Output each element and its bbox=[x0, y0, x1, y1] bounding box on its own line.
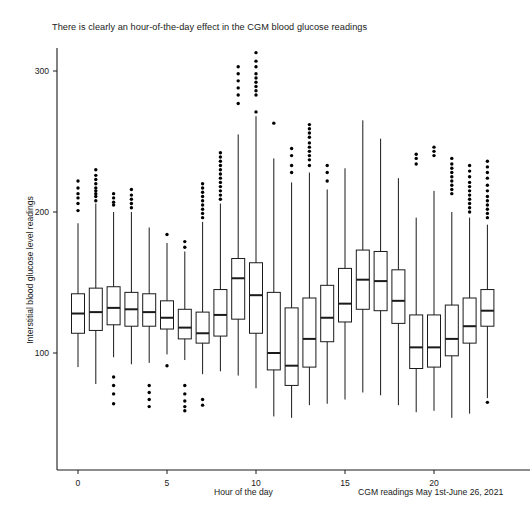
outlier-point bbox=[237, 72, 240, 75]
outlier-point bbox=[183, 392, 186, 395]
outlier-point bbox=[219, 164, 222, 167]
x-tick-label: 0 bbox=[68, 478, 88, 488]
box-iqr bbox=[107, 287, 120, 325]
outlier-point bbox=[130, 206, 133, 209]
outlier-point bbox=[450, 167, 453, 170]
outlier-point bbox=[165, 233, 168, 236]
outlier-point bbox=[219, 176, 222, 179]
box-iqr bbox=[303, 298, 316, 367]
boxplot-hour-16 bbox=[356, 120, 369, 392]
outlier-point bbox=[237, 79, 240, 82]
outlier-point bbox=[254, 65, 257, 68]
box-iqr bbox=[143, 294, 156, 326]
y-axis-label: Interstitial blood glucose level reading… bbox=[25, 160, 35, 380]
boxplot-hour-22 bbox=[463, 164, 476, 414]
outlier-point bbox=[219, 172, 222, 175]
y-tick-label: 300 bbox=[21, 66, 49, 76]
outlier-point bbox=[415, 162, 418, 165]
boxplot-hour-21 bbox=[445, 157, 458, 418]
outlier-point bbox=[486, 184, 489, 187]
outlier-point bbox=[432, 145, 435, 148]
outlier-point bbox=[201, 186, 204, 189]
boxplot-hour-7 bbox=[196, 182, 209, 407]
box-iqr bbox=[178, 309, 191, 339]
outlier-point bbox=[94, 174, 97, 177]
outlier-point bbox=[468, 206, 471, 209]
box-iqr bbox=[285, 308, 298, 386]
outlier-point bbox=[432, 150, 435, 153]
outlier-point bbox=[254, 81, 257, 84]
outlier-point bbox=[183, 384, 186, 387]
outlier-point bbox=[94, 182, 97, 185]
outlier-point bbox=[76, 186, 79, 189]
outlier-point bbox=[148, 405, 151, 408]
outlier-point bbox=[76, 202, 79, 205]
box-iqr bbox=[445, 305, 458, 356]
outlier-point bbox=[130, 198, 133, 201]
outlier-point bbox=[308, 164, 311, 167]
boxplot-hour-17 bbox=[374, 139, 387, 396]
boxplot-hour-1 bbox=[89, 168, 102, 384]
outlier-point bbox=[201, 207, 204, 210]
outlier-point bbox=[486, 160, 489, 163]
outlier-point bbox=[112, 375, 115, 378]
boxplot-hour-13 bbox=[303, 123, 316, 405]
outlier-point bbox=[450, 162, 453, 165]
outlier-point bbox=[486, 199, 489, 202]
boxplot-hour-8 bbox=[214, 151, 227, 371]
outlier-point bbox=[112, 192, 115, 195]
boxplot-hour-18 bbox=[392, 178, 405, 405]
outlier-point bbox=[148, 384, 151, 387]
outlier-point bbox=[290, 164, 293, 167]
boxplot-hour-14 bbox=[321, 164, 334, 404]
boxplot-hour-9 bbox=[232, 65, 245, 375]
box-iqr bbox=[321, 285, 334, 341]
outlier-point bbox=[254, 110, 257, 113]
outlier-point bbox=[201, 199, 204, 202]
outlier-point bbox=[486, 195, 489, 198]
outlier-point bbox=[415, 152, 418, 155]
outlier-point bbox=[308, 150, 311, 153]
outlier-point bbox=[219, 185, 222, 188]
outlier-point bbox=[76, 179, 79, 182]
outlier-point bbox=[486, 216, 489, 219]
outlier-point bbox=[468, 181, 471, 184]
outlier-point bbox=[237, 65, 240, 68]
outlier-point bbox=[468, 193, 471, 196]
outlier-point bbox=[308, 158, 311, 161]
outlier-point bbox=[94, 186, 97, 189]
box-iqr bbox=[267, 292, 280, 370]
boxplot-hour-0 bbox=[72, 179, 85, 367]
box-iqr bbox=[232, 259, 245, 320]
outlier-point bbox=[76, 192, 79, 195]
boxplot-hour-12 bbox=[285, 147, 298, 418]
outlier-point bbox=[183, 405, 186, 408]
outlier-point bbox=[308, 136, 311, 139]
outlier-point bbox=[326, 164, 329, 167]
outlier-point bbox=[326, 171, 329, 174]
outlier-point bbox=[237, 102, 240, 105]
outlier-point bbox=[468, 164, 471, 167]
outlier-point bbox=[112, 384, 115, 387]
outlier-point bbox=[272, 121, 275, 124]
outlier-point bbox=[183, 409, 186, 412]
boxplot-hour-23 bbox=[481, 160, 494, 405]
box-iqr bbox=[392, 270, 405, 324]
outlier-point bbox=[308, 131, 311, 134]
box-iqr bbox=[161, 301, 174, 329]
outlier-point bbox=[468, 202, 471, 205]
outlier-point bbox=[237, 86, 240, 89]
chart-caption: CGM readings May 1st-June 26, 2021 bbox=[358, 487, 503, 497]
outlier-point bbox=[486, 203, 489, 206]
outlier-point bbox=[308, 123, 311, 126]
outlier-point bbox=[308, 145, 311, 148]
box-iqr bbox=[428, 315, 441, 367]
outlier-point bbox=[219, 160, 222, 163]
outlier-point bbox=[130, 188, 133, 191]
outlier-point bbox=[130, 193, 133, 196]
outlier-point bbox=[450, 175, 453, 178]
x-tick-label: 10 bbox=[246, 478, 266, 488]
outlier-point bbox=[219, 155, 222, 158]
outlier-point bbox=[308, 154, 311, 157]
outlier-point bbox=[254, 59, 257, 62]
